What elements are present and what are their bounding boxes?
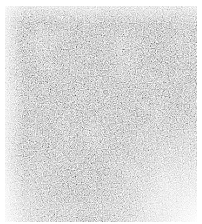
noise-texture-image [0,0,202,224]
noise-field [5,6,197,222]
noise-texture-svg [0,0,202,224]
